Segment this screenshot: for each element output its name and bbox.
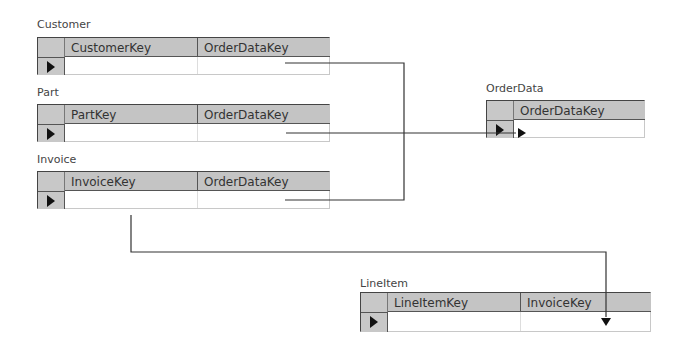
arrowhead-icon	[518, 128, 526, 138]
relationship-invoice-lineitem	[131, 215, 606, 317]
relationship-customer-invoice-bracket	[285, 63, 404, 200]
relationship-lines	[0, 0, 680, 355]
arrowhead-icon	[601, 318, 611, 326]
